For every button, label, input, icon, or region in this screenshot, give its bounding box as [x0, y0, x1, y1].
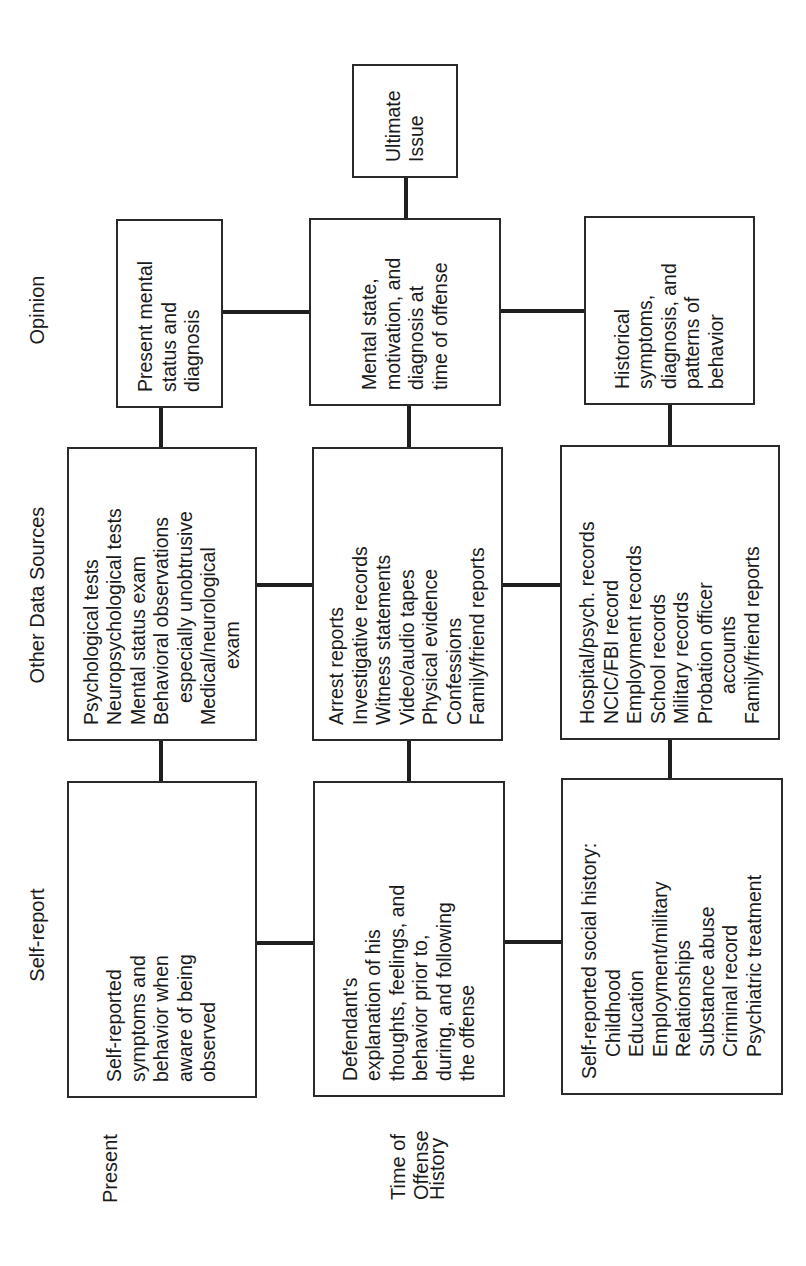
connector-sr-ods-history [668, 740, 672, 778]
connector-opinion-time-history [501, 309, 584, 313]
column-header-other-data-sources: Other Data Sources [26, 507, 48, 684]
row-label-present: Present [99, 1134, 122, 1203]
row-label-history: History [426, 1138, 449, 1200]
connector-sr-ods-time [407, 741, 411, 781]
self-report-present-box: Self-reported symptoms and behavior when… [67, 781, 257, 1098]
connector-ods-opinion-present [159, 408, 163, 447]
connector-opinion-ultimate-issue [404, 178, 408, 218]
opinion-time-of-offense-box: Mental state, motivation, and diagnosis … [309, 218, 501, 406]
self-report-history-box: Self-reported social history: Childhood … [561, 778, 783, 1095]
forensic-evaluation-diagram: Self-report Other Data Sources Opinion P… [0, 0, 806, 1266]
other-data-history-box: Hospital/psych. records NCIC/FBI record … [560, 445, 780, 740]
connector-sr-present-time [257, 941, 313, 945]
opinion-history-box: Historical symptoms, diagnosis, and patt… [584, 216, 755, 405]
column-header-self-report: Self-report [26, 888, 48, 981]
connector-ods-opinion-time [407, 406, 411, 447]
column-header-opinion: Opinion [26, 276, 48, 345]
connector-ods-opinion-history [668, 405, 672, 445]
other-data-present-box: Psychological tests Neuropsychological t… [67, 447, 257, 741]
self-report-time-of-offense-box: Defendant's explanation of his thoughts,… [313, 781, 505, 1097]
connector-ods-present-time [257, 583, 312, 587]
connector-ods-time-history [503, 583, 560, 587]
opinion-present-box: Present mental status and diagnosis [116, 219, 223, 408]
connector-sr-time-history [505, 940, 561, 944]
connector-opinion-present-time [223, 310, 309, 314]
ultimate-issue-box: Ultimate Issue [352, 64, 458, 178]
other-data-time-of-offense-box: Arrest reports Investigative records Wit… [312, 447, 503, 741]
connector-sr-ods-present [159, 741, 163, 781]
